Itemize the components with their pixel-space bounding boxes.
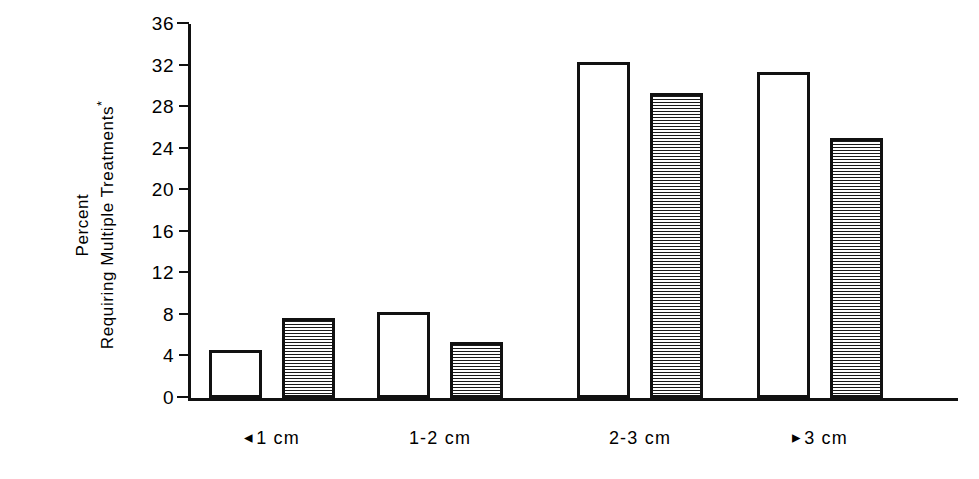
bar-hatched-3 — [830, 138, 883, 398]
y-axis-title-line-2-text: Requiring Multiple Treatments — [97, 106, 116, 349]
y-axis-tick-label-8: 8 — [163, 304, 174, 326]
y-axis-tick-0 — [177, 396, 189, 398]
y-axis-tick-label-12: 12 — [152, 262, 174, 284]
bar-hatched-0 — [282, 318, 335, 398]
y-axis-title-line-1: Percent — [72, 194, 94, 257]
x-axis-spine — [188, 398, 958, 401]
y-axis-tick-8 — [179, 313, 189, 315]
bar-hatched-1 — [450, 342, 503, 398]
y-axis-tick-label-36: 36 — [152, 13, 174, 35]
x-axis-category-label-3: ▸3 cm — [792, 428, 848, 449]
y-axis-tick-4 — [179, 354, 189, 356]
y-axis-tick-label-28: 28 — [152, 96, 174, 118]
y-axis-tick-label-32: 32 — [152, 55, 174, 77]
y-axis-tick-label-0: 0 — [163, 387, 174, 409]
y-axis-tick-28 — [179, 105, 189, 107]
x-axis-category-text-0: 1 cm — [256, 428, 300, 448]
y-axis-tick-label-24: 24 — [152, 138, 174, 160]
comparison-arrow-icon-3: ▸ — [792, 427, 802, 448]
y-axis-tick-24 — [179, 147, 189, 149]
y-axis-tick-label-16: 16 — [152, 221, 174, 243]
y-axis-title-line-2: Requiring Multiple Treatments* — [94, 101, 118, 349]
bar-hatched-2 — [650, 93, 703, 398]
plot-area: 04812162024283236 ◂1 cm1-2 cm2-3 cm▸3 cm — [188, 24, 958, 398]
x-axis-category-label-1: 1-2 cm — [409, 428, 471, 449]
bar-open-3 — [757, 72, 810, 398]
y-axis-tick-32 — [179, 64, 189, 66]
x-axis-category-text-3: 3 cm — [804, 428, 848, 448]
y-axis-tick-20 — [179, 188, 189, 190]
bar-open-2 — [577, 62, 630, 398]
y-axis-title-line-1-text: Percent — [73, 194, 92, 257]
y-axis-tick-label-20: 20 — [152, 179, 174, 201]
bar-open-1 — [377, 312, 430, 398]
chart-figure: Percent Requiring Multiple Treatments* 0… — [0, 0, 979, 479]
bar-open-0 — [209, 350, 262, 398]
y-axis-tick-36 — [177, 22, 189, 24]
x-axis-category-label-2: 2-3 cm — [609, 428, 671, 449]
y-axis-title-footnote-marker: * — [94, 101, 109, 106]
x-axis-category-text-2: 2-3 cm — [609, 428, 671, 448]
y-axis-spine — [188, 24, 191, 398]
y-axis-tick-12 — [179, 271, 189, 273]
comparison-arrow-icon-0: ◂ — [244, 427, 254, 448]
x-axis-category-text-1: 1-2 cm — [409, 428, 471, 448]
y-axis-tick-label-4: 4 — [163, 345, 174, 367]
y-axis-title: Percent Requiring Multiple Treatments* — [65, 25, 125, 425]
y-axis-tick-16 — [179, 230, 189, 232]
x-axis-category-label-0: ◂1 cm — [244, 428, 300, 449]
